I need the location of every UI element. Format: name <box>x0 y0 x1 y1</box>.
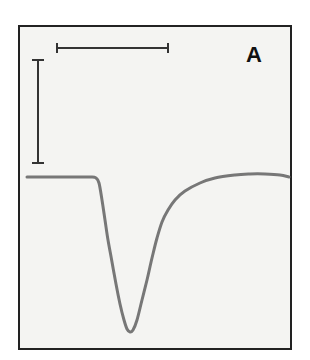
panel-label: A <box>246 44 262 66</box>
plot-frame <box>19 26 291 349</box>
figure-panel <box>0 0 310 360</box>
